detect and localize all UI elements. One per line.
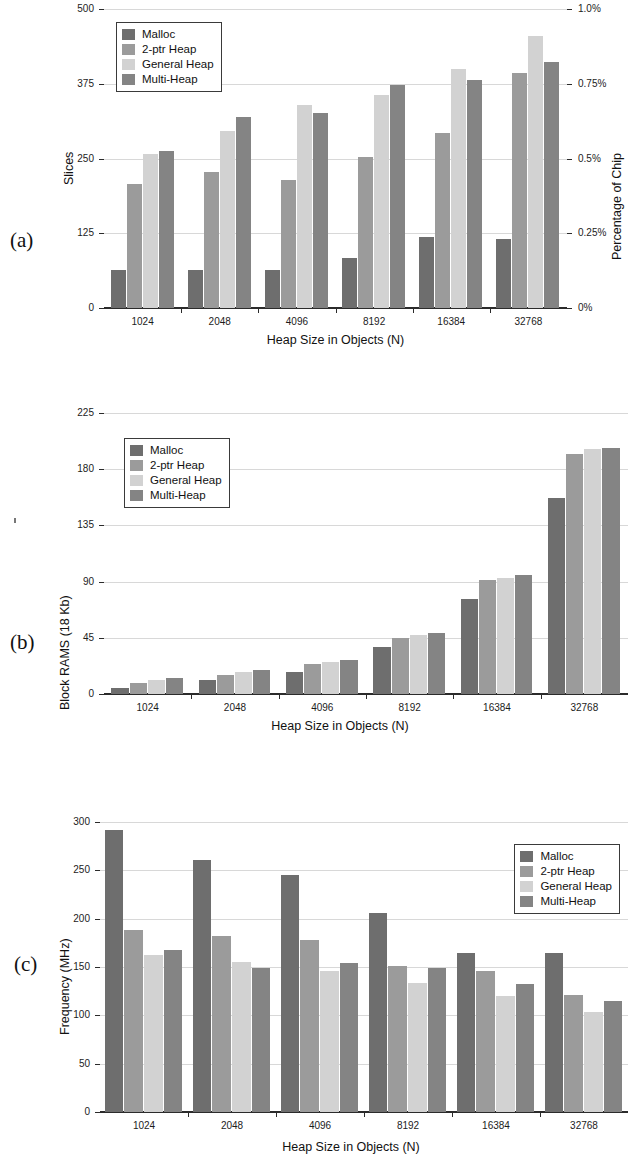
x-axis-group-separator xyxy=(258,308,259,313)
bar xyxy=(479,580,496,694)
x-axis-tick-label: 16384 xyxy=(413,317,490,327)
y-axis-tick-label-right: 1.0% xyxy=(578,4,601,14)
y-axis-tick-label: 250 xyxy=(52,154,94,164)
legend-swatch-icon xyxy=(520,866,533,877)
y-axis-tick-label: 250 xyxy=(48,865,90,875)
bar xyxy=(604,1001,623,1112)
legend-swatch-icon xyxy=(130,460,143,471)
x-axis-title-b: Heap Size in Objects (N) xyxy=(104,719,576,733)
legend-item-label: Multi-Heap xyxy=(540,896,596,908)
legend-swatch-icon xyxy=(122,44,135,55)
x-axis-tick-label: 16384 xyxy=(453,703,540,713)
figure-panel-a: (a) Slices Percentage of Chip 0125250375… xyxy=(0,0,628,390)
legend-item-label: General Heap xyxy=(150,475,222,487)
y-axis-tick-label: 100 xyxy=(48,1010,90,1020)
chart-legend: Malloc2-ptr HeapGeneral HeapMulti-Heap xyxy=(514,844,620,914)
legend-item-label: Malloc xyxy=(540,851,573,863)
plot-area-c: 0501001502002503001024204840968192163843… xyxy=(100,822,628,1112)
y-axis-tick-right xyxy=(567,84,572,85)
y-axis-title-right-a: Percentage of Chip xyxy=(610,153,624,260)
bar xyxy=(111,270,126,308)
legend-item-label: Malloc xyxy=(142,29,175,41)
bar xyxy=(322,662,339,694)
bar xyxy=(105,830,124,1112)
x-axis-tick-label: 4096 xyxy=(276,1121,364,1131)
panel-label-a: (a) xyxy=(10,228,33,253)
y-axis-tick xyxy=(95,870,100,871)
x-axis-group-separator xyxy=(188,1112,189,1117)
bar xyxy=(212,936,231,1112)
bar xyxy=(236,117,251,308)
y-axis-tick-label: 300 xyxy=(48,817,90,827)
bar xyxy=(374,95,389,308)
bar xyxy=(544,62,559,308)
x-axis-tick-label: 1024 xyxy=(104,703,191,713)
bar xyxy=(373,647,390,694)
chart-legend: Malloc2-ptr HeapGeneral HeapMulti-Heap xyxy=(116,22,222,92)
x-axis-group-separator xyxy=(191,694,192,699)
figure-panel-b: (b) Block RAMS (18 Kb) 04590135180225102… xyxy=(0,390,628,800)
legend-item-label: 2-ptr Heap xyxy=(540,866,594,878)
y-axis-tick-right xyxy=(567,9,572,10)
x-axis-group-separator xyxy=(364,1112,365,1117)
bar xyxy=(457,953,476,1113)
legend-item: Multi-Heap xyxy=(122,72,214,87)
chart-legend: Malloc2-ptr HeapGeneral HeapMulti-Heap xyxy=(124,438,230,508)
x-axis-title-a: Heap Size in Objects (N) xyxy=(104,333,567,347)
bar xyxy=(516,984,535,1112)
bar xyxy=(281,180,296,308)
bar xyxy=(390,85,405,308)
y-axis-tick-label-right: 0.25% xyxy=(578,228,606,238)
bar xyxy=(564,995,583,1112)
bar xyxy=(496,239,511,308)
bar xyxy=(566,454,583,694)
legend-swatch-icon xyxy=(520,851,533,862)
legend-swatch-icon xyxy=(520,896,533,907)
x-axis-tick-label: 8192 xyxy=(364,1121,452,1131)
gridline xyxy=(104,413,628,414)
bar xyxy=(428,968,447,1112)
bar xyxy=(545,953,564,1112)
bar xyxy=(392,638,409,694)
bar xyxy=(584,1012,603,1112)
y-axis-tick-label: 0 xyxy=(52,303,94,313)
y-axis-tick-label: 225 xyxy=(52,408,94,418)
legend-item: Malloc xyxy=(130,443,222,458)
bar xyxy=(512,73,527,308)
x-axis-tick-label: 32768 xyxy=(540,1121,628,1131)
y-axis-tick-label-right: 0.5% xyxy=(578,154,601,164)
legend-item: General Heap xyxy=(520,879,612,894)
x-axis-tick-label: 2048 xyxy=(181,317,258,327)
x-axis-group-separator xyxy=(336,308,337,313)
y-axis-tick xyxy=(99,84,104,85)
y-axis-tick xyxy=(99,9,104,10)
x-axis-tick-label: 8192 xyxy=(336,317,413,327)
bar xyxy=(497,578,514,694)
x-axis-group-separator xyxy=(540,1112,541,1117)
bar xyxy=(342,258,357,308)
y-axis-tick-right xyxy=(567,308,572,309)
bar xyxy=(313,113,328,308)
x-axis-tick-label: 4096 xyxy=(258,317,335,327)
bar xyxy=(584,449,601,694)
bar xyxy=(159,151,174,308)
bar xyxy=(232,962,251,1112)
x-axis-tick-label: 16384 xyxy=(452,1121,540,1131)
y-axis-tick-label-right: 0.75% xyxy=(578,79,606,89)
bar xyxy=(297,105,312,308)
bar xyxy=(602,448,619,694)
y-axis-tick-label: 135 xyxy=(52,520,94,530)
legend-item-label: General Heap xyxy=(142,59,214,71)
y-axis-tick xyxy=(99,469,104,470)
bar xyxy=(369,913,388,1112)
legend-item: 2-ptr Heap xyxy=(130,458,222,473)
legend-item-label: General Heap xyxy=(540,881,612,893)
y-axis-tick-label-right: 0% xyxy=(578,303,592,313)
legend-item: Multi-Heap xyxy=(520,894,612,909)
legend-item: Multi-Heap xyxy=(130,488,222,503)
x-axis-tick-label: 8192 xyxy=(366,703,453,713)
bar xyxy=(148,680,165,694)
bar xyxy=(111,688,128,694)
bar xyxy=(528,36,543,308)
x-axis-tick-label: 2048 xyxy=(188,1121,276,1131)
